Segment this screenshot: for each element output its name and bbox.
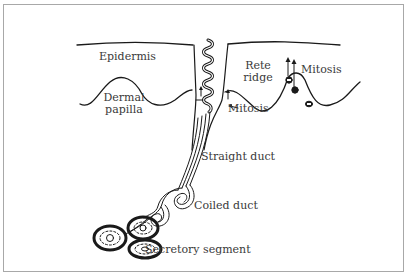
label-rete-ridge-line2: ridge xyxy=(238,72,278,84)
sweat-gland-diagram xyxy=(0,0,408,274)
coiled-duct xyxy=(126,185,194,234)
label-rete-ridge: Rete ridge xyxy=(238,60,278,84)
secretory-tubule-2 xyxy=(94,226,126,250)
secretory-tubule-1 xyxy=(128,217,158,239)
label-dermal-papilla: Dermal papilla xyxy=(102,92,146,116)
label-epidermis: Epidermis xyxy=(99,51,156,63)
mitosis-cell-2 xyxy=(292,87,298,93)
acrosyringium-coil xyxy=(204,40,213,112)
mitosis-cells xyxy=(286,77,313,107)
label-straight-duct: Straight duct xyxy=(201,151,275,163)
label-mitosis-top: Mitosis xyxy=(301,64,342,76)
skin-surface-line-right xyxy=(228,42,340,45)
label-secretory-segment: Secretory segment xyxy=(145,244,251,256)
label-mitosis-duct: Mitosis xyxy=(228,103,269,115)
duct-wall-left xyxy=(192,45,196,150)
label-coiled-duct: Coiled duct xyxy=(194,200,258,212)
skin-surface-line xyxy=(77,42,193,45)
label-dermal-papilla-line2: papilla xyxy=(102,104,146,116)
